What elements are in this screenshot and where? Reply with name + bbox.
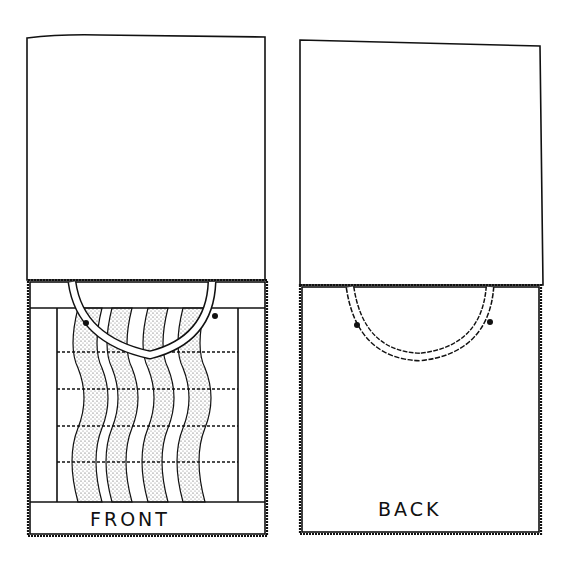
back-body <box>300 285 541 534</box>
front-flap <box>27 35 265 280</box>
back-handle <box>350 287 490 357</box>
back-flap <box>300 40 543 285</box>
bag-diagram <box>0 0 568 582</box>
front-panel <box>27 35 267 536</box>
front-label: FRONT <box>90 508 170 530</box>
back-panel <box>300 40 543 534</box>
back-label: BACK <box>378 498 441 520</box>
